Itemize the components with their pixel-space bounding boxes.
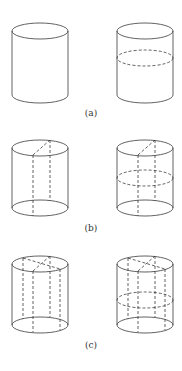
- panel-c-right-cylinder: [117, 256, 173, 333]
- horizontal-section: [117, 170, 173, 186]
- horizontal-section: [117, 50, 173, 66]
- panel-c-left-cylinder: [12, 256, 68, 333]
- panel-b-right-cylinder: [117, 140, 173, 216]
- panel-a-right-cylinder: [117, 23, 173, 103]
- panel-label-c: (c): [85, 340, 97, 350]
- panel-label-a: (a): [85, 108, 97, 118]
- panel-b-left-cylinder: [12, 140, 68, 216]
- panel-label-b: (b): [85, 223, 98, 233]
- panel-a-left-cylinder: [12, 23, 68, 103]
- cylinder-sections-diagram: (a) (b): [0, 0, 182, 371]
